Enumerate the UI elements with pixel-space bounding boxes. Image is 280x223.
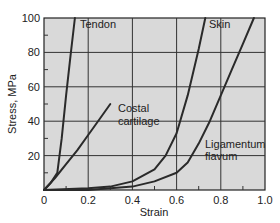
- x-tick-label: 0.4: [125, 194, 140, 206]
- y-tick-labels: 20406080100: [22, 12, 40, 162]
- curve-label: Costal: [118, 102, 149, 114]
- curve-label: cartilage: [118, 115, 160, 127]
- plot-area: [44, 18, 265, 190]
- x-tick-label: 1.0: [257, 194, 272, 206]
- curve-label: Tendon: [80, 18, 116, 30]
- x-tick-label: 0.8: [213, 194, 228, 206]
- curve-label: Ligamentum: [205, 138, 266, 150]
- y-tick-label: 60: [28, 81, 40, 93]
- y-tick-label: 80: [28, 46, 40, 58]
- y-tick-label: 100: [22, 12, 40, 24]
- x-axis-title: Strain: [140, 206, 169, 218]
- x-tick-label: 0: [41, 194, 47, 206]
- curve-label: flavum: [205, 150, 237, 162]
- x-tick-labels: 00.20.40.60.81.0: [41, 194, 273, 206]
- x-tick-label: 0.6: [169, 194, 184, 206]
- y-tick-label: 20: [28, 150, 40, 162]
- y-tick-label: 40: [28, 115, 40, 127]
- x-tick-label: 0.2: [81, 194, 96, 206]
- curve-label: Skin: [209, 18, 230, 30]
- y-axis-title: Stress, MPa: [6, 73, 18, 134]
- stress-strain-chart: 00.20.40.60.81.0 20406080100 TendonCosta…: [0, 0, 280, 223]
